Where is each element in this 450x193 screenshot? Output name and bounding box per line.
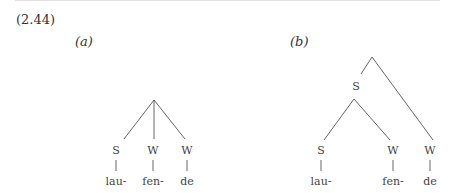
tree-a-node-w1: W bbox=[147, 145, 158, 156]
tree-a-syllable-3: de bbox=[180, 176, 194, 187]
tree-a-node-s: S bbox=[112, 145, 120, 156]
tree-b-node-s: S bbox=[317, 145, 325, 156]
tree-b-syllable-2: fen- bbox=[382, 176, 403, 187]
tree-b-syllable-1: lau- bbox=[311, 176, 332, 187]
tree-a-node-w2: W bbox=[181, 145, 192, 156]
tree-b-node-w2: W bbox=[424, 145, 435, 156]
tree-b-node-w1: W bbox=[387, 145, 398, 156]
tree-a-syllable-2: fen- bbox=[142, 176, 163, 187]
tree-a-syllable-1: lau- bbox=[106, 176, 127, 187]
tree-b-internal-node-s: S bbox=[352, 81, 360, 92]
tree-b-syllable-3: de bbox=[423, 176, 437, 187]
tree-lines bbox=[0, 0, 450, 193]
